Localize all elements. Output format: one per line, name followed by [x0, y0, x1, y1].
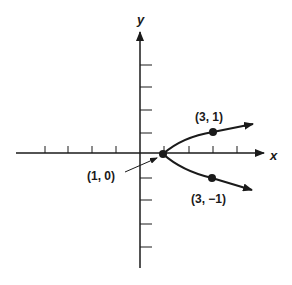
parabola-lower-branch: [163, 154, 252, 190]
point-3-neg1: [208, 174, 216, 182]
label-point-3-neg1: (3, −1): [191, 192, 226, 206]
label-vertex: (1, 0): [87, 169, 115, 183]
point-3-1: [209, 128, 217, 136]
parabola-upper-branch: [163, 124, 253, 154]
x-axis-label: x: [269, 148, 278, 163]
vertex-leader-arrow: [125, 158, 157, 172]
label-point-3-1: (3, 1): [195, 110, 223, 124]
coordinate-plane: y x (1, 0) (3, 1) (3, −1): [0, 0, 292, 285]
point-vertex: [159, 150, 167, 158]
x-axis-ticks: [45, 146, 237, 153]
y-axis-ticks: [140, 65, 152, 247]
y-axis-label: y: [136, 12, 145, 27]
